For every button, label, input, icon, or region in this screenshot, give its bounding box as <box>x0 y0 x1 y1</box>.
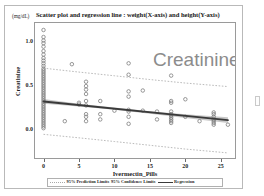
plot-area: Creatinine <box>34 22 236 159</box>
scatter-point <box>42 45 46 49</box>
scatter-point <box>99 99 103 103</box>
scatter-point <box>127 115 130 119</box>
figure-page: (mg/dL) Scatter plot and regression line… <box>0 0 264 196</box>
scatter-point <box>198 119 202 123</box>
legend-entry-confidence: 95% Confidence Limits <box>111 180 155 184</box>
scatter-point <box>84 88 88 92</box>
y-axis-unit-label: (mg/dL) <box>12 13 29 19</box>
legend-entry-prediction: 95% Prediction Limits <box>50 180 109 184</box>
legend-entry-regression: Regression <box>158 180 195 184</box>
x-tick-mark <box>185 159 186 162</box>
scatter-point <box>42 28 46 32</box>
scatter-point <box>127 73 130 77</box>
scatter-point <box>127 95 130 99</box>
scatter-point <box>127 122 130 126</box>
scatter-points-group <box>42 28 230 130</box>
x-axis-title: Ivermectin_Pills <box>34 170 236 177</box>
solid-line-icon <box>158 181 173 184</box>
scatter-point <box>226 123 230 127</box>
x-tick-mark <box>114 159 115 162</box>
y-tick-label: 1.0 <box>17 38 33 44</box>
scatter-point <box>84 80 88 84</box>
series-watermark-label: Creatinine <box>153 49 236 71</box>
chart-title: Scatter plot and regression line : weigh… <box>36 11 236 18</box>
scatter-plot-svg <box>35 23 235 158</box>
legend-label-confidence: 95% Confidence Limits <box>111 180 155 184</box>
scatter-point <box>42 35 46 39</box>
scatter-point <box>99 118 103 122</box>
chart-legend: 95% Prediction Limits 95% Confidence Lim… <box>47 178 223 187</box>
x-tick-label: 25 <box>211 163 231 169</box>
x-tick-mark <box>150 159 151 162</box>
scatter-point <box>70 62 74 65</box>
scatter-point <box>84 99 88 103</box>
regression-line <box>44 101 228 120</box>
y-tick-label: 0.0 <box>17 126 33 132</box>
scatter-point <box>84 92 88 96</box>
x-tick-label: 5 <box>69 163 89 169</box>
scatter-point <box>84 84 88 88</box>
scatter-point <box>184 98 188 102</box>
scatter-point <box>84 119 88 123</box>
scatter-point <box>169 74 173 78</box>
scatter-point <box>63 119 67 123</box>
x-tick-mark <box>221 159 222 162</box>
scatter-point <box>42 53 46 57</box>
x-tick-mark <box>79 159 80 162</box>
scatter-point <box>99 112 103 116</box>
scatter-point <box>141 89 145 93</box>
x-tick-label: 15 <box>140 163 160 169</box>
page-edge-mark <box>255 96 260 106</box>
legend-label-regression: Regression <box>174 180 194 184</box>
x-tick-label: 20 <box>175 163 195 169</box>
scatter-point <box>127 90 130 94</box>
x-tick-mark <box>44 159 45 162</box>
legend-label-prediction: 95% Prediction Limits <box>67 180 110 184</box>
x-tick-label: 10 <box>104 163 124 169</box>
scatter-point <box>155 118 159 122</box>
y-tick-label: 0.5 <box>17 82 33 88</box>
x-tick-label: 0 <box>34 163 54 169</box>
scatter-point <box>127 62 130 66</box>
dotted-line-icon <box>50 181 65 184</box>
prediction-limit-lower <box>44 134 228 153</box>
scatter-point <box>42 49 46 53</box>
y-axis-ticks: 0.00.51.0 <box>15 22 33 159</box>
